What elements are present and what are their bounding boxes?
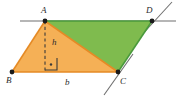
vertex-dot-b [10,70,15,75]
vertex-dot-d [150,19,155,24]
geometry-canvas [0,0,181,99]
vertex-label-d: D [146,6,153,15]
vertex-label-a: A [41,6,47,15]
vertex-label-c: C [120,77,126,86]
parallelogram-area-diagram: A B C D h b [0,0,181,99]
base-label: b [65,78,70,87]
vertex-dot-c [116,70,121,75]
vertex-dot-a [43,19,48,24]
height-label: h [52,38,57,47]
vertex-label-b: B [6,76,12,85]
